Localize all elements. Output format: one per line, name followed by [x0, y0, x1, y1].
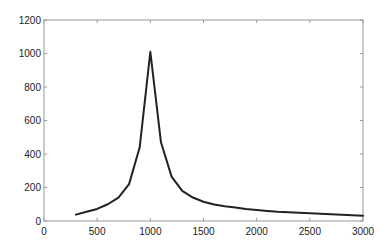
x-tick-label: 500	[89, 226, 106, 237]
y-tick-label: 600	[24, 115, 41, 126]
y-tick-label: 400	[24, 149, 41, 160]
line-chart: 020040060080010001200 050010001500200025…	[0, 0, 391, 252]
x-tick-label: 1000	[139, 226, 162, 237]
plot-frame	[44, 20, 363, 221]
series-line	[76, 52, 363, 216]
y-axis-tick-labels: 020040060080010001200	[19, 15, 42, 227]
data-series	[76, 52, 363, 216]
x-tick-label: 2000	[246, 226, 269, 237]
y-tick-label: 200	[24, 182, 41, 193]
x-tick-label: 0	[41, 226, 47, 237]
axis-ticks	[44, 20, 363, 221]
y-tick-label: 800	[24, 82, 41, 93]
x-axis-tick-labels: 050010001500200025003000	[41, 226, 374, 237]
y-tick-label: 0	[35, 216, 41, 227]
x-tick-label: 2500	[299, 226, 322, 237]
x-tick-label: 3000	[352, 226, 375, 237]
plot-border	[44, 20, 363, 221]
y-tick-label: 1000	[19, 48, 42, 59]
x-tick-label: 1500	[192, 226, 215, 237]
y-tick-label: 1200	[19, 15, 42, 26]
